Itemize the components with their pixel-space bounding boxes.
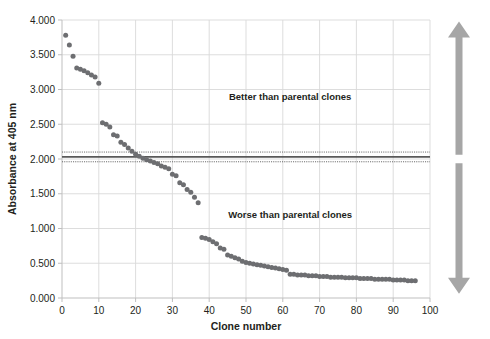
direction-arrows	[448, 21, 470, 293]
y-tick-label: 3.500	[30, 49, 55, 60]
data-point	[63, 33, 68, 38]
down-arrow	[448, 163, 470, 294]
y-tick-label: 4.000	[30, 15, 55, 26]
x-tick-label: 80	[351, 305, 363, 316]
y-tick-labels: 0.0000.5001.0001.5002.0002.5003.0003.500…	[30, 15, 55, 304]
data-point	[196, 200, 201, 205]
data-point	[284, 268, 289, 273]
x-tick-label: 20	[130, 305, 142, 316]
better-than-parental-annotation: Better than parental clones	[229, 91, 351, 102]
x-tick-label: 60	[277, 305, 289, 316]
data-point	[181, 182, 186, 187]
data-point	[122, 142, 127, 147]
data-point	[192, 195, 197, 200]
data-point	[166, 166, 171, 171]
y-tick-label: 0.000	[30, 293, 55, 304]
x-tick-label: 0	[59, 305, 65, 316]
y-axis-title: Absorbance at 405 nm	[6, 103, 18, 215]
y-tick-label: 3.000	[30, 84, 55, 95]
data-point	[413, 278, 418, 283]
x-tick-label: 90	[388, 305, 400, 316]
x-tick-label: 70	[314, 305, 326, 316]
x-tick-label: 10	[93, 305, 105, 316]
data-point	[188, 190, 193, 195]
y-tick-label: 1.500	[30, 188, 55, 199]
x-tick-label: 30	[167, 305, 179, 316]
y-tick-label: 1.000	[30, 223, 55, 234]
x-tick-labels: 0102030405060708090100	[59, 305, 439, 316]
data-point	[115, 134, 120, 139]
data-point	[126, 145, 131, 150]
x-tick-label: 40	[204, 305, 216, 316]
data-point	[67, 43, 72, 48]
data-point	[107, 125, 112, 130]
data-point	[221, 247, 226, 252]
y-tick-label: 0.500	[30, 258, 55, 269]
data-point	[174, 173, 179, 178]
data-point	[93, 74, 98, 79]
data-point	[71, 54, 76, 59]
x-tick-label: 100	[422, 305, 439, 316]
data-point	[96, 81, 101, 86]
y-tick-label: 2.000	[30, 154, 55, 165]
chart-figure: 0.0000.5001.0001.5002.0002.5003.0003.500…	[0, 0, 490, 339]
up-arrow	[448, 21, 470, 154]
x-axis-title: Clone number	[211, 320, 282, 332]
worse-than-parental-annotation: Worse than parental clones	[228, 209, 352, 220]
absorbance-scatter-chart: 0.0000.5001.0001.5002.0002.5003.0003.500…	[0, 0, 490, 339]
y-tick-label: 2.500	[30, 119, 55, 130]
data-point	[214, 241, 219, 246]
x-tick-label: 50	[240, 305, 252, 316]
